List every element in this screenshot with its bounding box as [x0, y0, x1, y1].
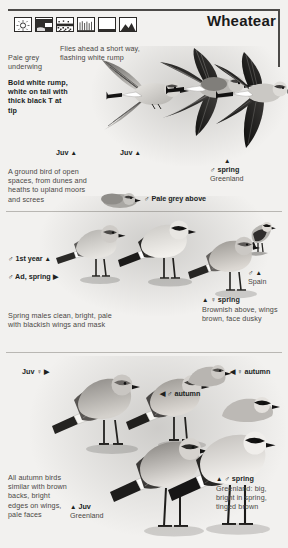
bird-male-head-pale-grey: [96, 188, 142, 210]
habitat-icon-row: [14, 17, 137, 32]
caption-spring-males: Spring males clean, bright, pale with bl…: [8, 311, 118, 329]
triangle-right-icon: ▶: [53, 273, 58, 280]
triangle-up-icon: ▲: [70, 503, 76, 510]
triangle-left-icon: ◀: [230, 368, 235, 375]
plain-icon: [98, 17, 116, 32]
triangle-up-icon: ▲: [216, 475, 222, 482]
triangle-up-icon: ▲: [202, 296, 208, 303]
page-title: Wheatear: [207, 12, 276, 29]
label-juv-greenland-location: Greenland: [70, 511, 104, 520]
bird-male-spring-greenland-flight: [214, 52, 288, 152]
label-male-spring-greenland: ▲ ♂ spring Greenland: [210, 156, 244, 183]
stony-ground-icon: [56, 17, 74, 32]
bird-male-first-year: [52, 214, 126, 290]
triangle-right-icon: ▶: [44, 368, 49, 375]
label-juv-greenland: ▲ Juv Greenland: [70, 502, 104, 520]
label-first-year: ♂ 1st year ▲: [8, 254, 51, 263]
triangle-up-icon: ▲: [224, 156, 244, 165]
label-juv-left-text: Juv: [56, 148, 68, 157]
bird-male-head-masked: [218, 392, 284, 426]
caption-rump: Bold white rump, white on tail with thic…: [8, 78, 70, 115]
triangle-up-icon: ▲: [134, 149, 140, 156]
caption-underwing: Pale grey underwing: [8, 53, 64, 71]
sun-dunes-icon: [14, 17, 32, 32]
field-guide-page: Wheatear: [0, 0, 288, 548]
label-ad-spring: ♂ Ad, spring ▶: [8, 272, 58, 281]
grass-icon: [77, 17, 95, 32]
label-juv-mid-text: Juv: [120, 148, 132, 157]
upland-moor-icon: [119, 17, 137, 32]
label-female-spring: ▲ ♀ spring: [202, 295, 240, 304]
label-male-spring-text: ♂ spring: [210, 165, 239, 174]
triangle-left-icon: ◀: [160, 390, 165, 397]
header-rule: [8, 9, 280, 11]
label-female-autumn-text: ♀ autumn: [237, 367, 270, 376]
label-juv-left: Juv ▲: [56, 148, 77, 157]
label-first-year-text: ♂ 1st year: [8, 254, 43, 263]
label-pale-grey-above: ♂ Pale grey above: [144, 194, 206, 203]
label-male-spring-greenland-text: ♂ spring: [224, 474, 253, 483]
label-ad-spring-text: ♂ Ad, spring: [8, 272, 51, 281]
divider-bottom: [6, 352, 282, 353]
caption-autumn: All autumn birds similar with brown back…: [8, 473, 70, 519]
label-pale-grey-above-text: ♂ Pale grey above: [144, 194, 206, 203]
bird-female-autumn-head: [182, 360, 234, 390]
label-female-spring-text: ♀ spring: [210, 295, 239, 304]
caption-male-spring-greenland: Greenland: big, bright in spring, tinged…: [216, 484, 282, 512]
label-juv-female: Juv ♀ ▶: [22, 367, 49, 376]
label-juv-female-text: Juv ♀: [22, 367, 42, 376]
caption-female-spring: Brownish above, wings brown, face dusky: [202, 305, 282, 323]
label-male-spring-greenland-standing: ▲ ♂ spring: [216, 474, 254, 483]
caption-flight: Flies ahead a short way, flashing white …: [60, 44, 152, 62]
triangle-up-icon: ▲: [70, 149, 76, 156]
cliff-icon: [35, 17, 53, 32]
label-juv-greenland-text: Juv: [78, 502, 90, 511]
label-female-autumn: ◀ ♀ autumn: [230, 367, 270, 376]
label-juv-mid: Juv ▲: [120, 148, 141, 157]
triangle-up-icon: ▲: [45, 255, 51, 262]
label-male-autumn: ◀ ♂ autumn: [160, 389, 200, 398]
label-male-spring-location: Greenland: [210, 174, 244, 183]
label-male-autumn-text: ♂ autumn: [167, 389, 200, 398]
